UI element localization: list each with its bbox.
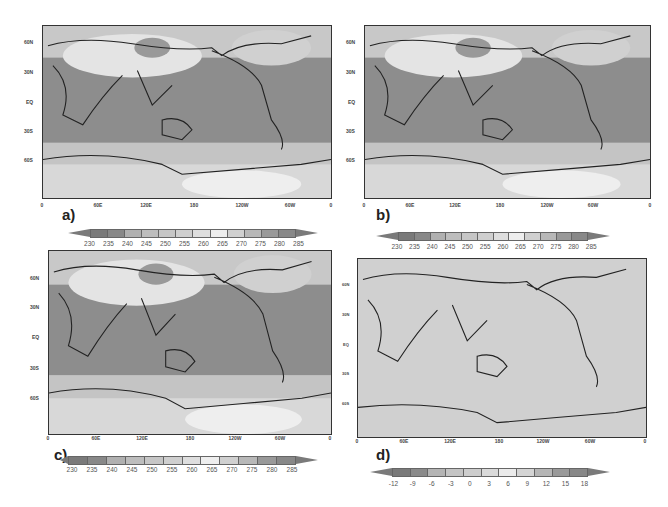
- colorbar-cells: [398, 232, 588, 241]
- map-panel-a: [42, 25, 332, 199]
- colorbar-cell: [516, 469, 534, 476]
- colorbar-tick-label: 235: [406, 243, 424, 250]
- y-tick: 30S: [24, 128, 33, 134]
- x-tick: 180: [186, 435, 194, 441]
- colorbar-cell: [508, 233, 524, 240]
- colorbar-labels-b: 230235240245250255260265270275280285: [388, 243, 600, 250]
- colorbar-a: [68, 229, 318, 238]
- colorbar-tick-label: -9: [403, 480, 422, 487]
- colorbar-cell: [399, 233, 414, 240]
- x-tick: 0: [644, 438, 647, 444]
- world-map-graphic: [49, 251, 331, 434]
- colorbar-cell: [200, 457, 219, 464]
- colorbar-cell: [534, 469, 552, 476]
- colorbar-tick-label: 18: [575, 480, 594, 487]
- colorbar-cell: [524, 233, 540, 240]
- y-tick: 60S: [30, 395, 39, 401]
- x-tick: 120E: [140, 202, 152, 208]
- colorbar-cells: [392, 468, 588, 477]
- colorbar-tick-label: 230: [62, 466, 82, 473]
- colorbar-tick-label: 270: [222, 466, 242, 473]
- colorbar-cell: [463, 469, 481, 476]
- colorbar-tick-label: 280: [262, 466, 282, 473]
- colorbar-tick-label: 255: [175, 240, 194, 247]
- colorbar-tick-label: 260: [182, 466, 202, 473]
- colorbar-tick-label: 255: [162, 466, 182, 473]
- colorbar-cell: [430, 233, 446, 240]
- x-tick: 0: [330, 202, 333, 208]
- colorbar-tick-label: 275: [251, 240, 270, 247]
- colorbar-cell: [182, 457, 201, 464]
- world-map-graphic: [358, 259, 646, 437]
- map-panel-d: [357, 258, 647, 438]
- colorbar-cell: [556, 233, 572, 240]
- colorbar-cell: [261, 230, 278, 237]
- colorbar-cell: [91, 230, 107, 237]
- colorbar-tick-label: 235: [99, 240, 118, 247]
- colorbar-tick-label: 260: [494, 243, 512, 250]
- y-tick: 60N: [30, 275, 39, 281]
- colorbar-cell: [571, 233, 587, 240]
- x-tick: 0: [47, 435, 50, 441]
- colorbar-cell: [210, 230, 227, 237]
- x-tick: 180: [190, 202, 198, 208]
- x-tick: 120E: [449, 202, 461, 208]
- x-tick: 60E: [94, 202, 103, 208]
- colorbar-cell: [257, 457, 276, 464]
- colorbar-cell: [244, 230, 261, 237]
- colorbar-arrow-left: [376, 232, 398, 240]
- colorbar-labels-d: -12-9-6-30369121518: [384, 480, 594, 487]
- colorbar-tick-label: 270: [232, 240, 251, 247]
- colorbar-d: [370, 468, 610, 477]
- x-tick: 120W: [235, 202, 248, 208]
- y-tick: EQ: [343, 342, 349, 347]
- colorbar-tick-label: 15: [556, 480, 575, 487]
- colorbar-tick-label: 285: [582, 243, 600, 250]
- x-tick: 0: [329, 435, 332, 441]
- colorbar-tick-label: -3: [441, 480, 460, 487]
- colorbar-tick-label: 250: [142, 466, 162, 473]
- colorbar-cell: [163, 457, 182, 464]
- colorbar-cell: [69, 457, 87, 464]
- y-tick: EQ: [26, 99, 33, 105]
- colorbar-tick-label: 6: [499, 480, 518, 487]
- colorbar-tick-label: -12: [384, 480, 403, 487]
- y-tick: 30N: [342, 312, 349, 317]
- colorbar-arrow-right: [296, 229, 318, 237]
- colorbar-arrow-left: [68, 229, 90, 237]
- colorbar-tick-label: 235: [82, 466, 102, 473]
- x-tick: 60W: [585, 438, 595, 444]
- colorbar-arrow-right: [296, 456, 318, 464]
- colorbar-arrow-right: [588, 468, 610, 476]
- colorbar-tick-label: 280: [565, 243, 583, 250]
- colorbar-tick-label: 255: [476, 243, 494, 250]
- y-tick: EQ: [348, 99, 355, 105]
- colorbar-cell: [278, 230, 295, 237]
- x-tick: 0: [41, 202, 44, 208]
- colorbar-tick-label: 12: [537, 480, 556, 487]
- x-tick: 0: [649, 202, 652, 208]
- colorbar-cell: [445, 469, 463, 476]
- x-tick: 60E: [92, 435, 101, 441]
- colorbar-cell: [461, 233, 477, 240]
- colorbar-tick-label: 230: [388, 243, 406, 250]
- colorbar-cells: [90, 229, 296, 238]
- colorbar-tick-label: 285: [282, 466, 302, 473]
- colorbar-cells: [68, 456, 296, 465]
- x-tick: 120W: [540, 202, 553, 208]
- x-tick: 120W: [228, 435, 241, 441]
- panel-label-a: a): [62, 206, 75, 223]
- panel-label-d: d): [376, 446, 390, 463]
- y-tick: 60S: [24, 157, 33, 163]
- colorbar-tick-label: 265: [213, 240, 232, 247]
- x-tick: 0: [363, 202, 366, 208]
- x-tick: 60W: [285, 202, 295, 208]
- colorbar-cell: [445, 233, 461, 240]
- colorbar-cell: [144, 457, 163, 464]
- colorbar-tick-label: 285: [289, 240, 308, 247]
- colorbar-cell: [477, 233, 493, 240]
- colorbar-cell: [87, 457, 106, 464]
- colorbar-tick-label: 230: [80, 240, 99, 247]
- colorbar-tick-label: 275: [242, 466, 262, 473]
- colorbar-cell: [125, 457, 144, 464]
